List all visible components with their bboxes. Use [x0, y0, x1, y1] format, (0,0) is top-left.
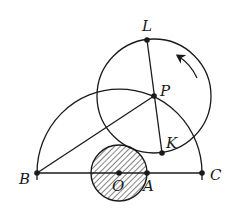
point-o [116, 170, 122, 176]
label-a: A [141, 177, 154, 195]
point-b [34, 170, 40, 176]
rotation-arrow-icon [178, 56, 197, 78]
point-p [151, 93, 157, 99]
label-b: B [18, 170, 30, 188]
point-l [144, 37, 150, 43]
label-c: C [210, 166, 222, 184]
label-l: L [141, 17, 152, 35]
point-a [144, 170, 150, 176]
point-c [199, 170, 205, 176]
label-o: O [112, 177, 124, 195]
label-k: K [165, 134, 178, 152]
label-p: P [159, 82, 171, 100]
geometry-diagram: L P K B O A C [0, 0, 239, 217]
point-k [159, 150, 165, 156]
